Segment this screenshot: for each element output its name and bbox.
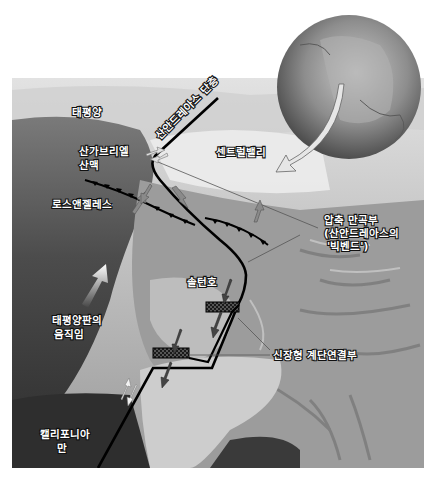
label-compression-bend-line1: 압축 만곡부	[324, 214, 378, 226]
label-pacific-plate-motion-line2: 움직임	[54, 328, 84, 340]
label-extensional-stepover: 신장형 계단연결부	[273, 349, 357, 361]
label-pacific-plate-motion-line1: 태평양판의	[52, 314, 102, 326]
label-pacific-ocean: 태평양	[72, 106, 102, 118]
label-los-angeles: 로스앤젤레스	[52, 198, 112, 210]
label-gulf-of-california-line1: 캘리포니아	[40, 428, 90, 440]
label-compression-bend-line2: (산안드레아스의	[324, 227, 399, 239]
label-gulf-of-california-line2: 만	[57, 442, 67, 454]
san-andreas-fault-diagram: 태평양 산안드레아스 단층 산가브리엘 산맥 센트럴밸리 로스앤젤레스 압축 만…	[0, 0, 436, 480]
earth-globe-icon	[277, 15, 421, 159]
stepover-block-lower	[153, 348, 189, 358]
label-san-gabriel-line1: 산가브리엘	[79, 145, 129, 157]
label-san-gabriel-line2: 산맥	[79, 159, 99, 171]
label-compression-bend-line3: '빅벤드')	[327, 240, 368, 252]
label-central-valley: 센트럴밸리	[216, 146, 266, 158]
label-salton-sea: 솔턴호	[187, 276, 217, 288]
